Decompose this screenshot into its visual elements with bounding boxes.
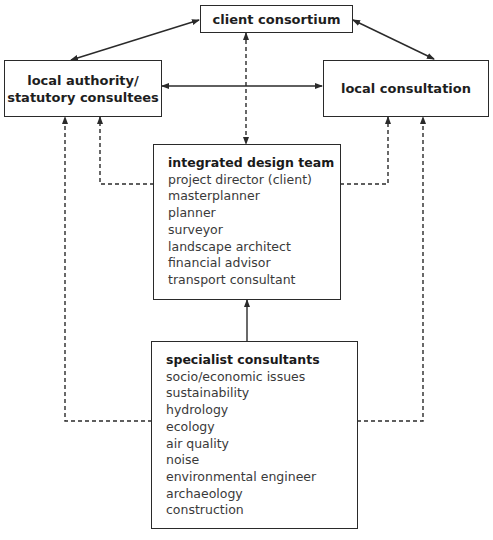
specialist-consultants-title: specialist consultants: [166, 352, 357, 369]
edge-specialist-authority: [65, 117, 152, 421]
list-item: planner: [168, 205, 340, 222]
edge-client-consultation: [353, 20, 434, 59]
local-authority-label-line2: statutory consultees: [7, 89, 159, 106]
specialist-consultants-members: socio/economic issues sustainability hyd…: [166, 369, 357, 519]
list-item: surveyor: [168, 222, 340, 239]
list-item: transport consultant: [168, 272, 340, 289]
edge-specialist-consultation: [357, 117, 423, 421]
list-item: socio/economic issues: [166, 369, 357, 386]
list-item: construction: [166, 502, 357, 519]
integrated-design-team-title: integrated design team: [168, 155, 340, 172]
node-local-consultation: local consultation: [323, 60, 489, 117]
list-item: environmental engineer: [166, 469, 357, 486]
integrated-design-team-members: project director (client) masterplanner …: [168, 172, 340, 289]
list-item: air quality: [166, 436, 357, 453]
list-item: ecology: [166, 419, 357, 436]
local-authority-label-line1: local authority/: [27, 72, 139, 89]
list-item: archaeology: [166, 486, 357, 503]
local-consultation-label: local consultation: [341, 80, 471, 97]
edge-client-authority: [71, 20, 199, 60]
edge-design-team-authority: [100, 117, 154, 184]
list-item: masterplanner: [168, 188, 340, 205]
list-item: project director (client): [168, 172, 340, 189]
list-item: hydrology: [166, 402, 357, 419]
list-item: financial advisor: [168, 255, 340, 272]
client-consortium-label: client consortium: [213, 11, 341, 28]
list-item: sustainability: [166, 385, 357, 402]
node-specialist-consultants: specialist consultants socio/economic is…: [151, 341, 358, 529]
edge-design-team-consultation: [340, 117, 388, 184]
node-integrated-design-team: integrated design team project director …: [153, 144, 341, 300]
node-client-consortium: client consortium: [200, 5, 353, 33]
list-item: landscape architect: [168, 239, 340, 256]
node-local-authority: local authority/ statutory consultees: [4, 60, 162, 117]
list-item: noise: [166, 452, 357, 469]
